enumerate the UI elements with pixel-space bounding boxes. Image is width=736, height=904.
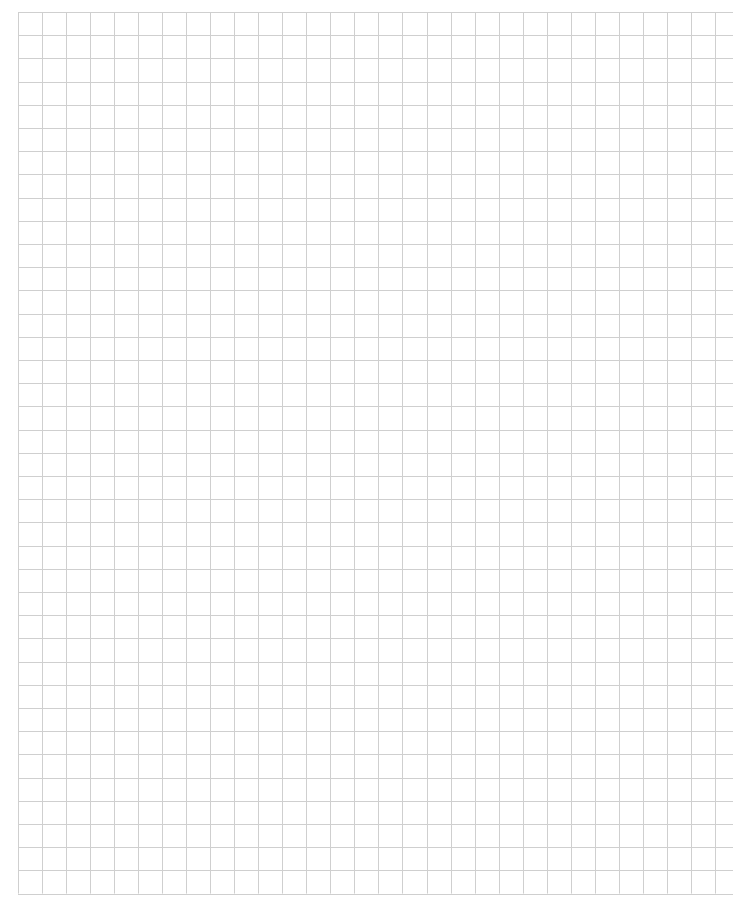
graph-paper-grid <box>0 0 736 904</box>
